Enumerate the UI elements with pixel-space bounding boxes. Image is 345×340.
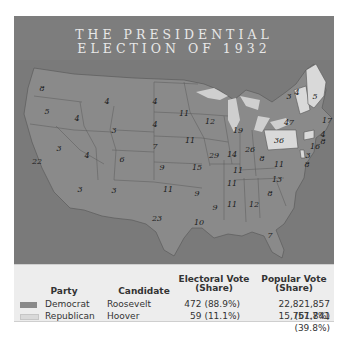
- ev-ia: 11: [185, 136, 195, 145]
- row-democrat-party: Democrat: [45, 298, 89, 310]
- ev-ny: 47: [284, 118, 294, 127]
- ev-tn: 11: [227, 179, 237, 188]
- ev-ks: 9: [159, 163, 164, 172]
- ev-fl: 7: [267, 231, 272, 240]
- ev-ga: 12: [249, 200, 259, 209]
- ev-ca: 22: [32, 157, 42, 166]
- header-electoral: Electoral Vote (Share): [174, 275, 254, 293]
- ev-ri: 4: [320, 130, 325, 139]
- title-line-1: THE PRESIDENTIAL: [14, 28, 334, 42]
- row-republican-party: Republican: [45, 310, 95, 322]
- row-republican-popular: 15,761,841 (39.8%): [244, 310, 330, 334]
- ev-id: 4: [74, 114, 79, 123]
- map-title: THE PRESIDENTIAL ELECTION OF 1932: [14, 16, 334, 56]
- row-republican-candidate: Hoover: [107, 310, 139, 322]
- title-line-2: ELECTION OF 1932: [14, 42, 334, 56]
- ev-de: 3: [305, 151, 310, 160]
- ev-mt: 4: [104, 97, 109, 106]
- ev-ar: 9: [194, 189, 199, 198]
- ev-ut: 4: [84, 151, 89, 160]
- ev-mn: 11: [179, 109, 189, 118]
- ev-va: 11: [274, 160, 284, 169]
- ev-ms: 9: [212, 203, 217, 212]
- ev-nv: 3: [56, 144, 61, 153]
- ev-wa: 8: [39, 84, 44, 93]
- header-popular: Popular Vote (Share): [254, 275, 334, 293]
- ev-wi: 12: [205, 117, 215, 126]
- row-republican-electoral: 59 (11.1%): [174, 310, 240, 322]
- ev-nj: 16: [310, 142, 320, 151]
- ev-sd: 4: [152, 120, 157, 129]
- ev-nm: 3: [111, 186, 116, 195]
- ev-mo: 15: [192, 163, 202, 172]
- ev-tx: 23: [152, 214, 162, 223]
- ev-pa: 36: [274, 136, 284, 145]
- state-de: [300, 150, 305, 158]
- ev-nc: 13: [272, 175, 282, 184]
- ev-nd: 4: [152, 97, 157, 106]
- ev-az: 3: [77, 185, 82, 194]
- ev-md: 8: [304, 160, 309, 169]
- ev-mi: 19: [233, 126, 243, 135]
- ev-al: 11: [227, 200, 237, 209]
- swatch-democrat: [20, 302, 37, 308]
- row-democrat-electoral: 472 (88.9%): [174, 298, 240, 310]
- ev-co: 6: [119, 155, 124, 164]
- ev-wv: 8: [259, 154, 264, 163]
- ev-ky: 11: [233, 166, 243, 175]
- ev-in: 14: [227, 150, 237, 159]
- ev-ne: 7: [152, 142, 157, 151]
- header-party: Party: [44, 287, 84, 296]
- ev-nh: 4: [294, 88, 299, 97]
- ev-ma: 17: [322, 116, 332, 125]
- ev-la: 10: [194, 218, 204, 227]
- ev-sc: 8: [267, 189, 272, 198]
- ev-vt: 3: [286, 92, 291, 101]
- legend-table: Party Candidate Electoral Vote (Share) P…: [14, 264, 334, 322]
- ev-or: 5: [44, 107, 49, 116]
- ev-oh: 26: [245, 145, 255, 154]
- ev-ok: 11: [163, 185, 173, 194]
- ev-wy: 3: [111, 126, 116, 135]
- header-candidate: Candidate: [114, 287, 174, 296]
- ev-il: 29: [209, 151, 219, 160]
- swatch-republican: [20, 314, 39, 320]
- state-ct: [304, 130, 314, 140]
- ev-me: 5: [312, 92, 317, 101]
- row-democrat-candidate: Roosevelt: [107, 298, 151, 310]
